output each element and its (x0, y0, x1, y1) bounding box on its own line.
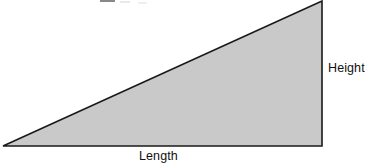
figure-container: Height Length (0, 0, 369, 165)
height-label: Height (328, 61, 365, 75)
right-triangle-shape (3, 1, 322, 146)
right-triangle-diagram (0, 0, 369, 165)
length-label: Length (139, 149, 178, 163)
